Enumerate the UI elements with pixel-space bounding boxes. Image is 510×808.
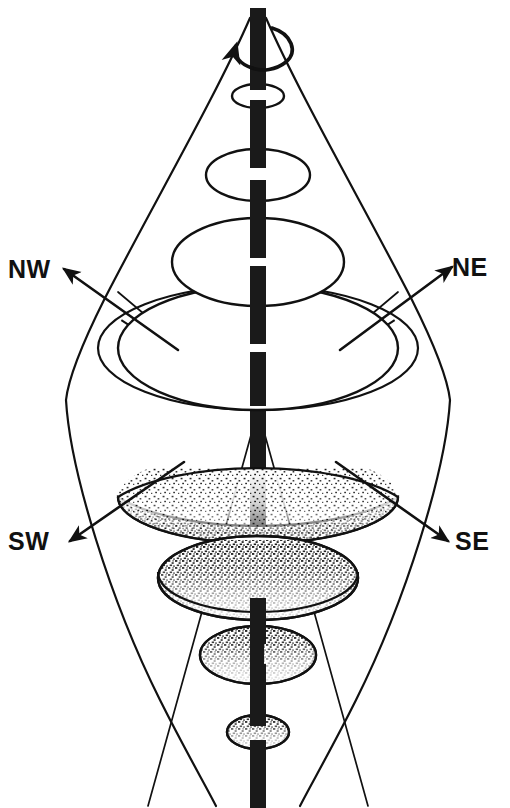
direction-label-nw: NW: [8, 255, 51, 284]
figure-root: NW NE SW SE: [0, 0, 510, 808]
direction-label-se: SE: [455, 527, 489, 556]
diagram-canvas: [0, 0, 510, 808]
axis-lower-front-segments: [250, 598, 266, 808]
disk-5: [118, 451, 398, 543]
direction-label-ne: NE: [452, 253, 488, 282]
direction-label-sw: SW: [8, 527, 49, 556]
